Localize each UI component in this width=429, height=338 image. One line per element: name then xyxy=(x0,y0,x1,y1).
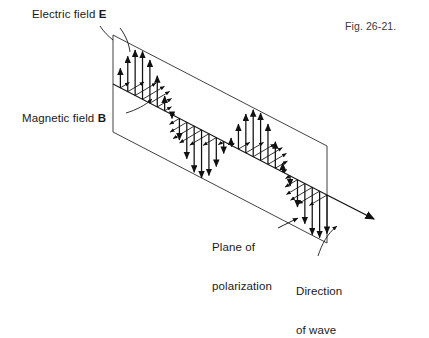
figure-caption: Fig. 26-21. xyxy=(345,20,396,33)
label-plane-line2: polarization xyxy=(212,280,272,293)
symbol-B: B xyxy=(98,112,106,124)
label-plane-of-polarization: Plane of polarization xyxy=(212,215,272,319)
label-electric-field-text: Electric field xyxy=(32,8,99,20)
label-direction-of-wave: Direction of wave xyxy=(296,259,342,338)
symbol-E: E xyxy=(99,8,107,20)
label-plane-line1: Plane of xyxy=(212,241,272,254)
wave-direction-arrow-shaft xyxy=(327,195,374,219)
label-direction-line2: of wave xyxy=(296,324,342,337)
label-magnetic-field: Magnetic field B xyxy=(22,112,106,125)
electric-field-leader-line xyxy=(100,26,113,40)
label-magnetic-field-text: Magnetic field xyxy=(22,112,98,124)
label-direction-line1: Direction xyxy=(296,285,342,298)
direction-of-wave-arrow xyxy=(327,195,374,219)
label-electric-field: Electric field E xyxy=(32,8,106,21)
